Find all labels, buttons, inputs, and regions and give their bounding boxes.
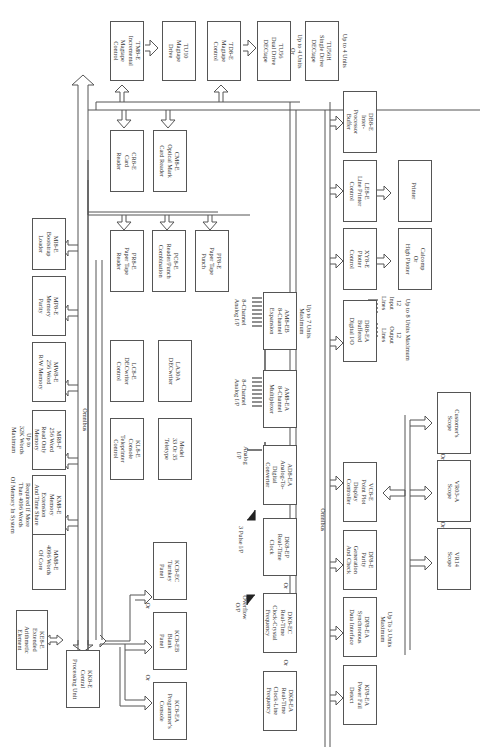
box-ke8e: KE8-E Extended Arithmetic Element <box>16 610 48 670</box>
box-dp8ea: DP8-EA Synchronous Data Interface <box>343 597 377 657</box>
box-kk8e-cpu: KK8-E Central Processing Unit <box>66 650 100 708</box>
box-am8ea: AM8-EA 8-Channel Multiplexer <box>263 370 297 428</box>
box-kp8ea: KP8-EA Power Fail Detect <box>343 665 377 725</box>
box-vr03a: VR03-A Scope <box>437 460 471 522</box>
box-km8e: KM8-E Memory Extension And Time Share <box>32 475 66 535</box>
note-analog-input: Analog I/P <box>234 440 250 470</box>
or-vr03a: Or <box>438 452 448 462</box>
or-dk8ec: Or <box>281 580 291 592</box>
box-mp8e: MP8-E Memory Parity <box>32 276 66 336</box>
note-tu56h-max: Up to 4 Units <box>338 22 352 80</box>
box-printer: Printer <box>398 160 432 222</box>
box-td8e: TD8-E Magtape Control <box>207 21 241 81</box>
note-dr8-output: 12 Output Lines <box>380 320 404 350</box>
memory-bus-arrow <box>72 75 94 690</box>
or-kc8eb: Or <box>143 600 153 612</box>
box-kl8e: KL8-E Console Teleprinter Control <box>110 418 144 480</box>
box-mi8e: MI8-E Bootstrap Loader <box>32 218 66 270</box>
note-am8ea-input: 8-Channel Analog I/P <box>232 370 250 415</box>
box-dk8ep: DK8-EP Real-Time Clock <box>263 518 297 576</box>
box-dr8ea: DR8-EA Buffered Digital I/O <box>343 300 377 362</box>
box-mw8e: MW8-E 256 Word R/W Memory <box>32 342 66 402</box>
note-memory-max: Up to 32K Words Maximum <box>10 410 34 470</box>
box-la30a: LA30A DECwriter <box>158 340 192 402</box>
box-kc8ec: KC8-EC Turnkey Panel <box>153 542 187 600</box>
note-dr8-max: Up to 8 Units Maximum <box>402 290 414 370</box>
box-calcomp: Calcomp Or High Plotter <box>398 228 432 290</box>
box-pc8e: PC8-E Reader/Punch Combination <box>152 230 186 292</box>
box-ad8ea: AD8-EA Analog-To- Digital Converter <box>263 445 297 505</box>
box-cr8e: CR8-E Card Reader <box>110 130 144 192</box>
note-am8eb-input: 8-Channel Analog I/P <box>232 290 250 335</box>
note-pulse-input: 3 Pulse I/P <box>236 520 248 560</box>
box-pp8e: PP8-E Paper Tape Punch <box>195 230 229 292</box>
or-dk8ea: Or <box>281 657 291 669</box>
box-kc8ea: KC8-EA Programmer's Console <box>153 682 187 740</box>
box-tu56: TU56 Dual Drive DECtape <box>257 21 291 81</box>
note-memory-required: Required If More Than 4096 Words Of Memo… <box>6 470 34 540</box>
note-dr8-input: 12 Input Lines <box>380 288 404 318</box>
box-db8e: DB8-E Inter- Processor Buffer <box>343 91 377 153</box>
box-cm8e: CM8-E Optical Mark Card Reader <box>153 130 187 192</box>
note-am8eb-max: Up to 7 Units Maximum <box>298 292 314 350</box>
box-mr8f: MR8-F 256 Word Read Only Memory <box>32 410 66 470</box>
box-tm8e: TM8-E Incremental Magtape Control <box>110 21 144 81</box>
bus-label-left: Omnibus <box>80 400 92 440</box>
box-vr14: VR14 Scope <box>437 528 471 590</box>
box-customer-scope: Customer's Scope <box>437 392 471 454</box>
or-vr14: Or <box>438 520 448 530</box>
note-dp8-max: Up To 3 Units Maximum <box>378 600 396 658</box>
box-vc8e: VC8-E Point Plot Display Controller <box>343 462 377 522</box>
or-kc8ea: Or <box>143 672 153 684</box>
note-tu56-max: Up to 4 Units Or <box>288 22 306 80</box>
box-tu56h: TU56H Single Drive DECtape <box>305 21 339 81</box>
box-teletype: Model 33 Or 35 Teletype <box>158 418 192 480</box>
note-overflow-output: Overflow O/P <box>234 590 250 624</box>
box-dk8ea: DK8-EA Real-Time Clock-Line Frequency <box>263 671 297 731</box>
box-am8eb: AM8-EB 8-Channel Expansion <box>263 292 297 350</box>
box-tu10: TU10 Magtape Drive <box>162 21 196 81</box>
box-pr8e: PR8-E Paper Tape Reader <box>110 230 144 292</box>
box-dp8e-parity: DP8-E Parity Generation And Check <box>343 530 377 590</box>
box-le8e: LE8-E Line Printer Control <box>343 160 377 222</box>
box-xy8e: XY8-E Plotter Control <box>343 228 377 290</box>
box-dk8ec: DK8-EC Real-Time Clock-Crystal Frequency <box>263 593 297 653</box>
box-mm8e: MM8-E 4096 Words Of Core <box>32 530 66 590</box>
box-lc8e: LC8-E DECwriter Control <box>110 340 144 402</box>
box-kc8eb: KC8-EB Blank Panel <box>153 612 187 670</box>
bus-label-right: Omnibus <box>318 500 330 540</box>
